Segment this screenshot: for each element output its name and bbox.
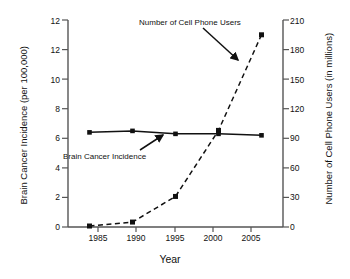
chart-figure: Brain Cancer Incidence (per 100,000) Num… bbox=[0, 0, 350, 279]
data-point bbox=[173, 132, 178, 137]
data-point bbox=[87, 130, 92, 135]
data-point bbox=[216, 132, 221, 137]
data-point bbox=[130, 129, 135, 134]
y-axis-left-ticks bbox=[62, 20, 68, 227]
data-point bbox=[259, 32, 264, 37]
annotation-arrow-brain-cancer-incidence bbox=[140, 135, 163, 150]
data-point bbox=[259, 133, 264, 138]
data-point bbox=[130, 220, 135, 225]
series-markers-brain-cancer-incidence bbox=[87, 129, 264, 138]
series-markers-cell-phone-users bbox=[87, 32, 264, 228]
data-point bbox=[173, 194, 178, 199]
y-axis-right-ticks bbox=[283, 20, 289, 227]
data-point bbox=[87, 224, 92, 229]
plot-area bbox=[0, 0, 350, 279]
annotation-arrow-cell-phone-users bbox=[203, 28, 238, 60]
